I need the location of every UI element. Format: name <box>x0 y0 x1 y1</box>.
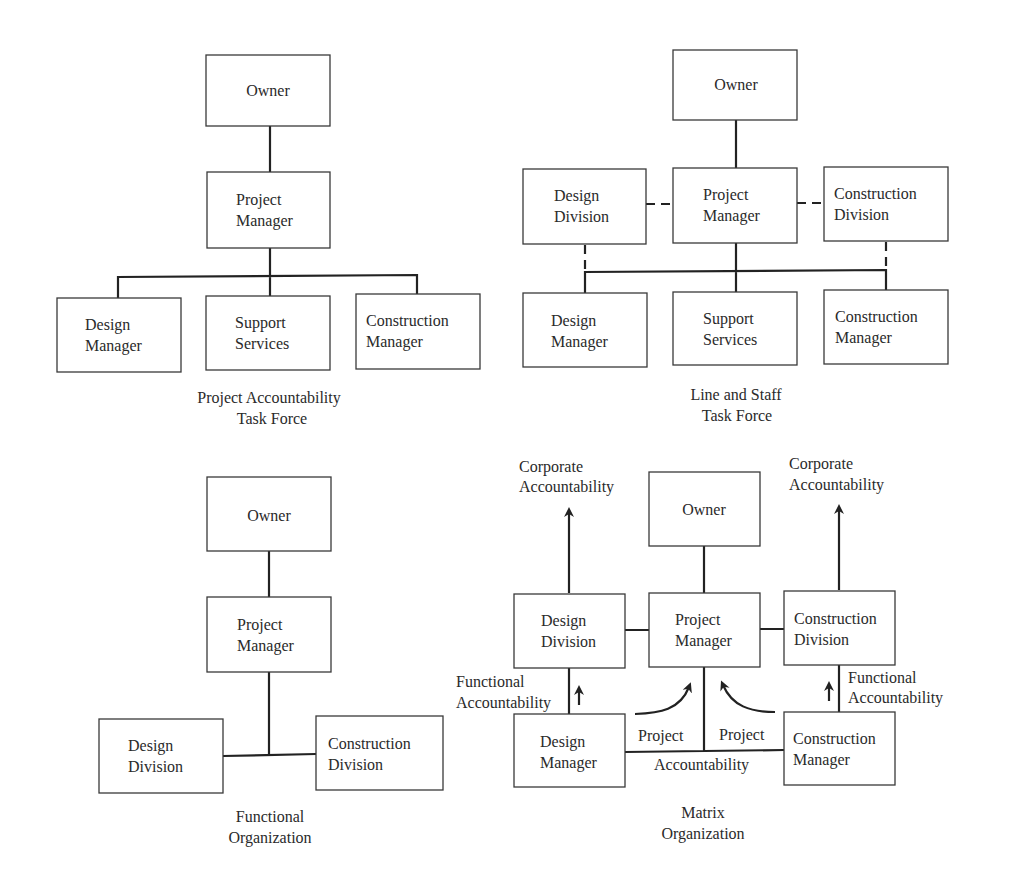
svg-text:Owner: Owner <box>682 501 726 518</box>
svg-text:Matrix: Matrix <box>681 804 725 821</box>
svg-text:Project Accountability: Project Accountability <box>197 389 341 407</box>
box-owner: Owner <box>207 477 331 551</box>
box-project-manager: Project Manager <box>673 168 797 243</box>
caption: Line and Staff Task Force <box>690 386 782 424</box>
box-design-division: Design Division <box>514 594 625 668</box>
svg-text:Corporate: Corporate <box>519 458 583 476</box>
svg-text:Design: Design <box>554 187 599 205</box>
box-design-division: Design Division <box>99 719 223 793</box>
svg-text:Accountability: Accountability <box>456 694 551 712</box>
caption: Functional Organization <box>228 808 311 847</box>
arrow-project-accountability-right <box>723 685 775 712</box>
box-owner: Owner <box>649 472 760 546</box>
svg-text:Owner: Owner <box>247 507 291 524</box>
svg-text:Accountability: Accountability <box>654 756 749 774</box>
svg-text:Accountability: Accountability <box>519 478 614 496</box>
svg-text:Corporate: Corporate <box>789 455 853 473</box>
svg-text:Manager: Manager <box>835 329 893 347</box>
svg-text:Manager: Manager <box>366 333 424 351</box>
svg-text:Support: Support <box>703 310 754 328</box>
box-construction-manager: Construction Manager <box>784 712 895 785</box>
svg-text:Manager: Manager <box>675 632 733 650</box>
svg-text:Manager: Manager <box>703 207 761 225</box>
label-corporate-accountability-right: Corporate Accountability <box>789 455 884 494</box>
box-design-manager: Design Manager <box>514 714 625 787</box>
org-structures-figure: Owner Project Manager Design Manager Sup… <box>0 0 1033 887</box>
arrow-project-accountability-left <box>635 687 689 714</box>
caption: Matrix Organization <box>661 804 744 843</box>
box-construction-division: Construction Division <box>824 167 948 241</box>
svg-text:Manager: Manager <box>551 333 609 351</box>
svg-text:Construction: Construction <box>366 312 449 329</box>
label-functional-accountability-right: Functional Accountability <box>848 669 943 707</box>
svg-text:Organization: Organization <box>661 825 744 843</box>
box-design-manager: Design Manager <box>523 293 647 367</box>
box-construction-manager: Construction Manager <box>356 294 480 369</box>
svg-text:Design: Design <box>128 737 173 755</box>
box-owner: Owner <box>673 50 797 120</box>
box-owner: Owner <box>206 55 330 126</box>
box-support-services: Support Services <box>673 292 797 365</box>
svg-text:Project: Project <box>237 616 283 634</box>
diagram-functional-organization: Owner Project Manager Design Division Co… <box>99 477 443 847</box>
svg-text:Functional: Functional <box>456 673 525 690</box>
svg-text:Project: Project <box>638 727 684 745</box>
svg-text:Manager: Manager <box>85 337 143 355</box>
svg-text:Division: Division <box>794 631 849 648</box>
box-construction-manager: Construction Manager <box>824 290 948 364</box>
svg-text:Division: Division <box>541 633 596 650</box>
svg-text:Design: Design <box>85 316 130 334</box>
box-construction-division: Construction Division <box>316 716 443 790</box>
svg-text:Design: Design <box>540 733 585 751</box>
svg-text:Manager: Manager <box>540 754 598 772</box>
svg-text:Services: Services <box>235 335 289 352</box>
svg-text:Construction: Construction <box>793 730 876 747</box>
box-construction-division: Construction Division <box>784 591 895 665</box>
connector-pm-children <box>585 243 886 294</box>
box-project-manager: Project Manager <box>207 172 330 248</box>
box-support-services: Support Services <box>206 296 330 370</box>
svg-text:Services: Services <box>703 331 757 348</box>
svg-text:Accountability: Accountability <box>848 689 943 707</box>
connector-pm-divisions <box>223 672 316 756</box>
svg-text:Task Force: Task Force <box>702 407 772 424</box>
svg-text:Line and Staff: Line and Staff <box>690 386 782 403</box>
box-project-manager: Project Manager <box>207 597 331 672</box>
svg-text:Project: Project <box>703 186 749 204</box>
svg-text:Division: Division <box>834 206 889 223</box>
svg-text:Project: Project <box>719 726 765 744</box>
label-functional-accountability-left: Functional Accountability <box>456 673 551 712</box>
box-project-manager: Project Manager <box>649 593 760 667</box>
svg-text:Support: Support <box>235 314 286 332</box>
svg-text:Construction: Construction <box>835 308 918 325</box>
diagram-project-accountability-task-force: Owner Project Manager Design Manager Sup… <box>57 55 480 427</box>
connector-pm-children <box>118 248 417 298</box>
diagram-matrix-organization: Owner Design Division Project Manager Co… <box>456 455 943 843</box>
svg-text:Design: Design <box>541 612 586 630</box>
svg-text:Owner: Owner <box>714 76 758 93</box>
svg-text:Functional: Functional <box>848 669 917 686</box>
diagram-line-and-staff-task-force: Owner Design Division Project Manager Co… <box>523 50 948 424</box>
box-design-manager: Design Manager <box>57 298 181 372</box>
box-design-division: Design Division <box>523 169 646 244</box>
svg-text:Division: Division <box>328 756 383 773</box>
svg-text:Manager: Manager <box>793 751 851 769</box>
svg-text:Construction: Construction <box>794 610 877 627</box>
svg-text:Construction: Construction <box>834 185 917 202</box>
caption: Project Accountability Task Force <box>197 389 341 427</box>
svg-text:Division: Division <box>554 208 609 225</box>
label-corporate-accountability-left: Corporate Accountability <box>519 458 614 496</box>
svg-text:Design: Design <box>551 312 596 330</box>
svg-text:Project: Project <box>236 191 282 209</box>
svg-text:Division: Division <box>128 758 183 775</box>
svg-text:Project: Project <box>675 611 721 629</box>
svg-text:Organization: Organization <box>228 829 311 847</box>
svg-text:Construction: Construction <box>328 735 411 752</box>
svg-text:Task Force: Task Force <box>237 410 307 427</box>
svg-text:Functional: Functional <box>236 808 305 825</box>
svg-text:Manager: Manager <box>237 637 295 655</box>
svg-text:Owner: Owner <box>246 82 290 99</box>
svg-text:Manager: Manager <box>236 212 294 230</box>
svg-text:Accountability: Accountability <box>789 476 884 494</box>
